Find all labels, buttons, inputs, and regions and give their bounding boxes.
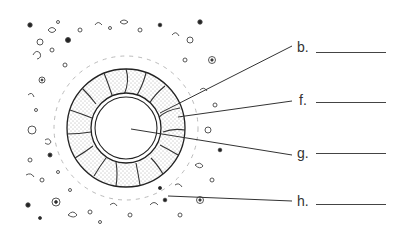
label-h: h. xyxy=(297,194,309,208)
label-g: g. xyxy=(297,146,309,160)
stippled-ring xyxy=(67,69,185,187)
answer-blank-h[interactable] xyxy=(316,204,386,205)
answer-blank-g[interactable] xyxy=(316,153,386,154)
label-f: f. xyxy=(299,93,307,107)
answer-blank-b[interactable] xyxy=(316,52,386,53)
answer-blank-f[interactable] xyxy=(316,102,386,103)
label-b: b. xyxy=(297,40,309,54)
central-lumen xyxy=(95,97,157,159)
